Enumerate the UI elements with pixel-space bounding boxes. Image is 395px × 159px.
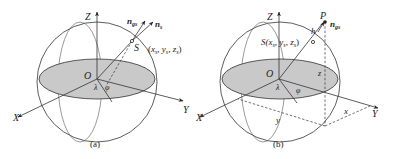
- dim-y-label: y: [275, 115, 280, 125]
- dim-x-label: x: [343, 106, 348, 116]
- origin-label: O: [84, 70, 91, 81]
- axis-y-label: Y: [372, 108, 379, 119]
- point-s-coordinates: (xs, ys, zs): [148, 44, 182, 55]
- vector-ngs-label: ngs: [330, 19, 341, 30]
- panel-b: Z Y X O λ φ S(xs, ys, zs) P h ngs z x y …: [195, 10, 379, 149]
- axis-y-label: Y: [183, 104, 190, 115]
- axis-x-label: X: [12, 112, 20, 123]
- angle-lambda-label: λ: [93, 83, 98, 92]
- vector-ngs-label: ngs: [127, 16, 138, 27]
- axis-z-label: Z: [267, 11, 273, 22]
- height-h-label: h: [311, 26, 316, 36]
- point-s-coordinates: S(xs, ys, zs): [261, 37, 299, 48]
- origin-label: O: [266, 68, 273, 79]
- panel-a-caption: (a): [90, 139, 100, 149]
- angle-phi-label: φ: [105, 83, 110, 92]
- point-s-marker: [311, 40, 314, 43]
- vector-ngs: [318, 22, 324, 32]
- point-p-label: P: [319, 10, 326, 21]
- angle-phi-label: φ: [296, 86, 301, 95]
- panel-b-caption: (b): [273, 139, 284, 149]
- y-dimension-dashed: [238, 99, 325, 126]
- axis-z-label: Z: [85, 11, 91, 22]
- vector-ns-label: ns: [155, 19, 163, 30]
- diagram-canvas: Z Y X O λ φ S (xs, ys, zs) ngs ns (a): [0, 0, 395, 159]
- angle-lambda-label: λ: [275, 83, 280, 92]
- axis-x-label: X: [195, 112, 203, 123]
- point-s-label: S: [134, 42, 139, 53]
- panel-a: Z Y X O λ φ S (xs, ys, zs) ngs ns (a): [12, 11, 190, 149]
